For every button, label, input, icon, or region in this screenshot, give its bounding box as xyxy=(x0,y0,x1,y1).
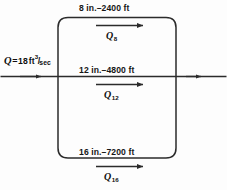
top-pipe-label: 8 in.–2400 ft xyxy=(79,4,130,13)
middle-pipe-flow-subscript: 12 xyxy=(112,94,119,101)
inflow-unit-base: ft xyxy=(29,56,35,66)
pipe-network-figure: 8 in.–2400 ft Q8 Q=18 ft3/sec 12 in.–480… xyxy=(0,0,227,190)
bottom-pipe-flow-subscript: 16 xyxy=(112,176,119,183)
bottom-pipe-flow-label: Q16 xyxy=(104,172,118,182)
inflow-variable: Q xyxy=(4,55,12,66)
pipe-loop-outline xyxy=(58,18,176,159)
bottom-pipe-flow-symbol: Q xyxy=(104,171,111,182)
middle-pipe-flow-label: Q12 xyxy=(104,90,118,100)
inflow-unit-denominator: sec xyxy=(39,59,51,66)
inflow-unit: ft3/sec xyxy=(29,55,53,66)
top-pipe-flow-subscript: 8 xyxy=(114,35,118,42)
bottom-pipe-label: 16 in.–7200 ft xyxy=(79,148,134,157)
middle-pipe-label: 12 in.–4800 ft xyxy=(79,66,134,75)
inflow-value: 18 xyxy=(18,56,28,66)
top-pipe-flow-symbol: Q xyxy=(106,30,113,41)
middle-pipe-flow-symbol: Q xyxy=(104,89,111,100)
top-pipe-flow-label: Q8 xyxy=(106,31,117,41)
inflow-rate-label: Q=18 ft3/sec xyxy=(4,55,52,67)
